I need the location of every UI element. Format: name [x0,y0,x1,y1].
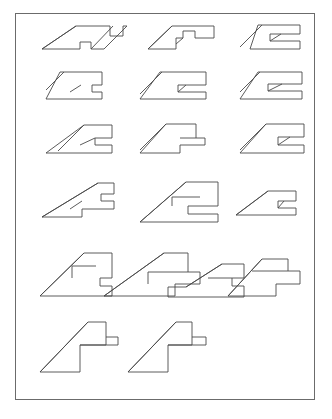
shape-row1-col3-edge-1 [240,25,262,47]
shape-row4-col3-edge-2 [278,201,284,208]
shape-row6-col1 [40,322,118,372]
shape-row5-col3 [168,264,244,297]
shape-row4-col1-outline [42,183,114,217]
shape-row3-col1 [46,125,112,153]
shape-row2-col3-edge-1 [240,72,260,92]
shape-row1-col2-outline [148,26,214,49]
shape-row1-col2-edge-1 [148,26,172,49]
shape-row1-col1-outline [42,26,127,49]
shape-row2-col1-edge-2 [70,85,81,92]
shape-row4-col2 [140,182,218,222]
shape-row1-col1 [42,26,127,49]
shape-row6-col2 [128,322,206,372]
shape-row2-col1 [46,72,102,99]
shape-row5-col1-edge-1 [40,253,84,296]
shape-row2-col3-edge-2 [268,84,282,91]
shape-row6-col1-outline [40,322,118,372]
shape-row3-col1-edge-1 [58,125,84,151]
shape-row2-col2-edge-1 [140,72,162,94]
shape-row2-col2 [140,72,206,99]
shape-row4-col1-edge-2 [70,201,82,209]
shape-row5-col4 [228,259,300,296]
shape-row5-col3-edge-1 [186,264,222,287]
shape-row5-col2-outline [104,253,200,296]
shape-row3-col2-edge-1 [140,124,166,150]
shape-row3-col1-edge-2 [80,138,95,145]
shape-row1-col2-edge-2 [176,38,183,44]
shape-row4-col2-edge-1 [140,182,186,222]
shape-row1-col3-edge-2 [270,34,281,41]
shape-row5-col2-edge-1 [104,253,164,296]
shape-row2-col3 [240,72,302,99]
shape-row2-col1-outline [46,72,102,99]
shape-row5-col3-outline [168,264,244,297]
shape-row6-col1-edge-1 [40,322,88,372]
shape-row1-col3-outline [250,25,300,49]
figure-page [0,0,332,419]
shape-row4-col3-edge-1 [236,191,268,215]
shape-row3-col3-edge-1 [240,124,266,150]
isometric-shapes-canvas [0,0,332,419]
shape-row5-col1 [40,253,112,296]
shape-row5-col4-outline [228,259,300,296]
shape-row3-col3-edge-2 [278,137,290,145]
shape-row3-col1-outline [46,125,112,153]
shape-row4-col1-edge-1 [42,183,98,217]
shape-row6-col2-edge-1 [128,322,176,372]
shape-row4-col3-outline [236,191,296,215]
shape-row3-col2-outline [140,124,205,153]
shape-row5-col2 [104,253,200,296]
shape-row3-col3-outline [240,124,304,153]
shape-row3-col2 [140,124,205,153]
shape-row1-col1-edge-2 [91,26,113,49]
shape-row3-col3 [240,124,304,153]
shapes-group [40,25,304,372]
shape-row5-col1-outline [40,253,112,296]
shape-row2-col1-edge-1 [46,72,64,90]
shape-row2-col2-outline [140,72,206,99]
shape-row4-col3 [236,191,296,215]
shape-row5-col4-edge-1 [228,259,262,296]
shape-row1-col2 [148,26,214,49]
shape-row2-col2-edge-2 [178,85,186,92]
shape-row4-col1 [42,183,114,217]
shape-row6-col2-outline [128,322,206,372]
shape-row1-col3 [240,25,300,49]
shape-row2-col3-outline [240,72,302,99]
shape-row1-col1-edge-1 [42,26,76,49]
